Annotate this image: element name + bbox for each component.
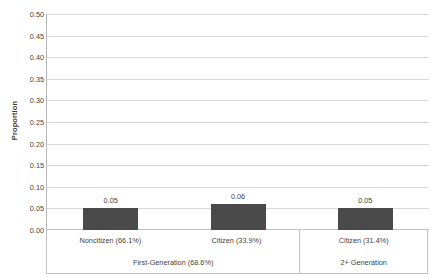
category-axis-level-categories: Noncitizen (66.1%)Citizen (33.9%)Citizen… <box>47 230 427 251</box>
y-axis-tick: 0.15 <box>16 161 44 170</box>
gridline <box>47 36 429 37</box>
gridline <box>47 14 429 15</box>
bar-value-label: 0.06 <box>208 192 268 201</box>
group-label: 2+ Generation <box>300 251 427 273</box>
y-axis-tick: 0.10 <box>16 182 44 191</box>
gridline <box>47 187 429 188</box>
category-axis: Noncitizen (66.1%)Citizen (33.9%)Citizen… <box>46 230 428 274</box>
gridline <box>47 144 429 145</box>
gridline <box>47 79 429 80</box>
y-axis-tick: 0.35 <box>16 74 44 83</box>
category-label: Citizen (33.9%) <box>174 230 301 251</box>
y-axis-tick: 0.30 <box>16 96 44 105</box>
y-axis-tick: 0.00 <box>16 226 44 235</box>
gridline <box>47 100 429 101</box>
y-axis-tick: 0.05 <box>16 204 44 213</box>
y-axis-tick: 0.45 <box>16 31 44 40</box>
bar[interactable] <box>211 204 266 230</box>
category-axis-level-groups: First-Generation (68.6%)2+ Generation <box>47 251 427 273</box>
bar[interactable] <box>83 208 138 230</box>
category-label: Citizen (31.4%) <box>300 230 427 251</box>
plot-area: 0.050.060.05 <box>46 14 428 230</box>
bar[interactable] <box>338 208 393 230</box>
bar-value-label: 0.05 <box>81 196 141 205</box>
group-label: First-Generation (68.6%) <box>47 251 300 273</box>
gridline <box>47 57 429 58</box>
y-axis-tick: 0.40 <box>16 53 44 62</box>
category-label: Noncitizen (66.1%) <box>47 230 174 251</box>
gridline <box>47 122 429 123</box>
y-axis-tick-labels: 0.500.450.400.350.300.250.200.150.100.05… <box>16 0 44 240</box>
y-axis-tick: 0.50 <box>16 10 44 19</box>
y-axis-tick: 0.20 <box>16 139 44 148</box>
bar-value-label: 0.05 <box>335 196 395 205</box>
gridline <box>47 165 429 166</box>
y-axis-tick: 0.25 <box>16 118 44 127</box>
bar-chart: Proportion 0.500.450.400.350.300.250.200… <box>0 0 439 278</box>
